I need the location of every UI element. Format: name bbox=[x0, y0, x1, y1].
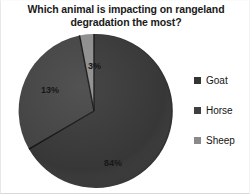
pie-plot-area: 84% 13% 3% bbox=[15, 32, 173, 192]
pie-shading-overlay bbox=[17, 34, 171, 188]
legend-swatch-horse bbox=[194, 107, 201, 114]
legend-item-horse[interactable]: Horse bbox=[194, 95, 249, 125]
legend-label-horse: Horse bbox=[206, 105, 233, 116]
pie-label-sheep: 3% bbox=[88, 61, 101, 71]
legend-item-goat[interactable]: Goat bbox=[194, 65, 249, 95]
legend-label-sheep: Sheep bbox=[206, 135, 235, 146]
pie-svg bbox=[15, 32, 173, 192]
chart-title-line-2: degradation the most? bbox=[70, 16, 181, 28]
legend-swatch-goat bbox=[194, 77, 201, 84]
pie-label-horse: 13% bbox=[41, 85, 59, 95]
pie-chart-figure: Which animal is impacting on rangeland d… bbox=[0, 0, 250, 194]
pie-label-goat: 84% bbox=[104, 158, 122, 168]
legend-swatch-sheep bbox=[194, 137, 201, 144]
legend-item-sheep[interactable]: Sheep bbox=[194, 125, 249, 155]
legend-label-goat: Goat bbox=[206, 75, 228, 86]
chart-legend: Goat Horse Sheep bbox=[194, 65, 249, 155]
chart-title-line-1: Which animal is impacting on rangeland bbox=[28, 3, 225, 15]
chart-title: Which animal is impacting on rangeland d… bbox=[9, 3, 243, 28]
